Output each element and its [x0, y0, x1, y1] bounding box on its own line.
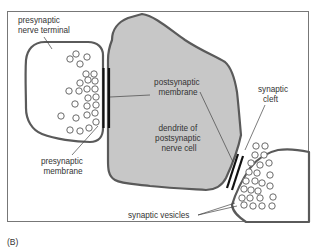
label-postsynaptic-membrane: postsynaptic membrane — [154, 78, 202, 97]
label-presynaptic-membrane: presynaptic membrane — [41, 157, 85, 176]
synapse-diagram: presynaptic nerve terminal postsynaptic … — [0, 0, 326, 251]
panel-label: (B) — [7, 237, 19, 247]
label-dendrite: dendrite of postsynaptic nerve cell — [155, 124, 203, 153]
label-synaptic-vesicles: synaptic vesicles — [128, 211, 189, 220]
